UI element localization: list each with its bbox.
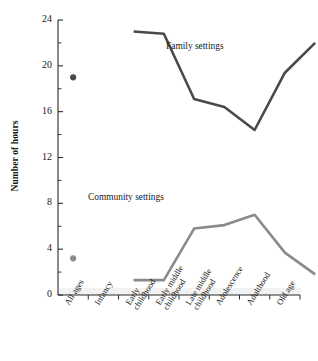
series-line xyxy=(134,31,316,130)
series-line xyxy=(134,215,316,280)
y-tick-label: 20 xyxy=(42,59,52,70)
y-tick-label: 8 xyxy=(47,196,52,207)
axes xyxy=(58,20,301,300)
series-marker-point xyxy=(70,255,76,261)
series-annotation-label: Community settings xyxy=(88,192,164,202)
plot-area xyxy=(0,0,318,361)
series-lines xyxy=(70,31,315,280)
y-tick-label: 24 xyxy=(42,13,52,24)
series-marker-point xyxy=(70,74,76,80)
y-tick-label: 0 xyxy=(47,288,52,299)
y-tick-label: 12 xyxy=(42,151,52,162)
series-annotation-label: Family settings xyxy=(166,41,224,51)
y-tick-label: 16 xyxy=(42,105,52,116)
y-tick-label: 4 xyxy=(47,242,52,253)
chart-figure: Number of hours 04812162024 All agesInfa… xyxy=(0,0,318,361)
